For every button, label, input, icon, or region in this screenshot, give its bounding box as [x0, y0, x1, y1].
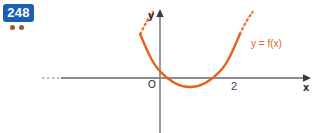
y-axis-label: y — [148, 9, 154, 21]
plot-svg — [0, 0, 317, 133]
curve-function-label: y = f(x) — [251, 38, 282, 49]
origin-label: O — [148, 79, 156, 90]
parabola-plot: y x O 2 y = f(x) — [0, 0, 317, 133]
y-axis-arrowhead-icon — [156, 9, 163, 17]
x-axis-label: x — [303, 81, 309, 93]
figure-root: 248 y x O 2 y = f(x) — [0, 0, 317, 133]
curve-right-dashed-tip — [240, 12, 253, 34]
x-tick-label-2: 2 — [231, 80, 237, 92]
